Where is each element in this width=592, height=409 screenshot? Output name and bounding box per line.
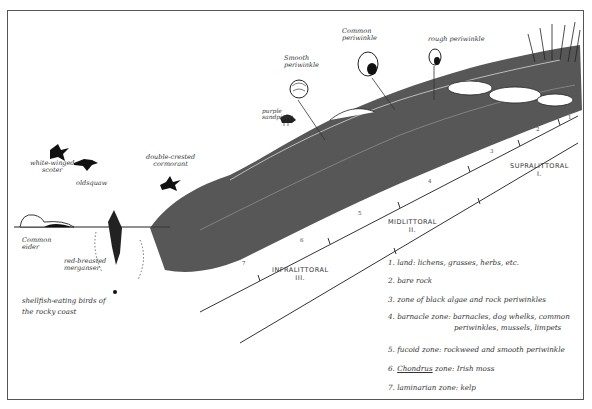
label-common-eider: Common eider [22, 237, 51, 251]
zone-infralittoral: INFRALITTORAL III. [272, 266, 329, 283]
zone-number-4: 4 [428, 178, 432, 184]
legend-item-4: 4. barnacle zone: barnacles, dog whelks,… [388, 312, 570, 321]
legend-num: 6. [388, 364, 395, 373]
label-rough-periwinkle: rough periwinkle [428, 36, 485, 43]
legend-name-suffix: zone [433, 364, 452, 373]
legend-item-3: 3. zone of black algae and rock periwink… [388, 295, 546, 304]
cormorant-figure [160, 176, 181, 191]
legend-desc: Irish moss [457, 364, 495, 373]
caption-text: shellfish-eating birds of the rocky coas… [22, 296, 117, 318]
legend-name: barnacle zone [397, 312, 448, 321]
legend-num: 3. [388, 295, 395, 304]
legend-name: laminarian zone [397, 383, 456, 392]
zone-name: SUPRALITTORAL [510, 162, 569, 170]
label-double-crested-cormorant: double-crested cormorant [146, 154, 195, 168]
legend-num: 7. [388, 383, 395, 392]
label-smooth-periwinkle: Smooth periwinkle [284, 55, 319, 69]
zone-number-2: 2 [536, 126, 540, 132]
legend-num: 2. [388, 276, 395, 285]
zone-number-7: 7 [242, 260, 246, 266]
legend-item-4-cont: periwinkles, mussels, limpets [454, 323, 561, 332]
legend-desc: rockweed and smooth periwinkle [444, 345, 565, 354]
zone-number-6: 6 [300, 237, 304, 243]
legend-desc: periwinkles, mussels, limpets [454, 323, 561, 332]
oldsquaw-figure [74, 159, 98, 171]
label-purple-sandpiper: purple sandpiper [262, 108, 292, 121]
legend-desc: kelp [460, 383, 476, 392]
legend-name: land [397, 258, 413, 267]
zone-numeral: III. [272, 274, 329, 282]
legend-num: 1. [388, 258, 395, 267]
legend-desc: lichens, grasses, herbs, etc. [418, 258, 519, 267]
zone-midlittoral: MIDLITTORAL II. [388, 218, 437, 235]
legend-item-2: 2. bare rock [388, 276, 432, 285]
label-oldsquaw: oldsquaw [76, 180, 107, 187]
legend-desc: barnacles, dog whelks, common [453, 312, 570, 321]
zone-supralittoral: SUPRALITTORAL I. [510, 162, 569, 179]
legend-num: 4. [388, 312, 395, 321]
caption: shellfish-eating birds of the rocky coas… [22, 296, 117, 318]
label-line: cormorant [146, 161, 195, 168]
label-line: periwinkle [342, 35, 377, 42]
zone-name: INFRALITTORAL [272, 266, 329, 274]
label-line: scoter [30, 167, 74, 174]
label-line: rough periwinkle [428, 36, 485, 43]
legend-name: zone of black algae and rock periwinkles [397, 295, 546, 304]
zone-number-5: 5 [358, 210, 362, 216]
label-red-breasted-merganser: red-breasted merganser [64, 258, 106, 272]
zone-numeral: II. [388, 226, 437, 234]
label-line: periwinkle [284, 62, 319, 69]
label-line: oldsquaw [76, 180, 107, 187]
label-line: eider [22, 244, 51, 251]
legend-name: fucoid zone [397, 345, 439, 354]
zone-number-3: 3 [490, 148, 494, 154]
label-common-periwinkle: Common periwinkle [342, 28, 377, 42]
label-white-winged-scoter: white-winged scoter [30, 160, 74, 174]
legend-name: Chondrus [397, 364, 432, 373]
common-eider-figure [20, 215, 74, 227]
label-line: sandpiper [262, 114, 292, 120]
legend-item-7: 7. laminarian zone: kelp [388, 383, 476, 392]
legend-num: 5. [388, 345, 395, 354]
zone-number-1: 1 [568, 114, 572, 120]
zone-name: MIDLITTORAL [388, 218, 437, 226]
merganser-figure [108, 210, 122, 265]
legend-name: bare rock [397, 276, 432, 285]
rock-algae-mass [150, 45, 582, 272]
label-line: merganser [64, 265, 106, 272]
legend-item-1: 1. land: lichens, grasses, herbs, etc. [388, 258, 519, 267]
legend-item-5: 5. fucoid zone: rockweed and smooth peri… [388, 345, 565, 354]
zone-numeral: I. [510, 170, 569, 178]
legend-item-6: 6. Chondrus zone: Irish moss [388, 364, 494, 373]
